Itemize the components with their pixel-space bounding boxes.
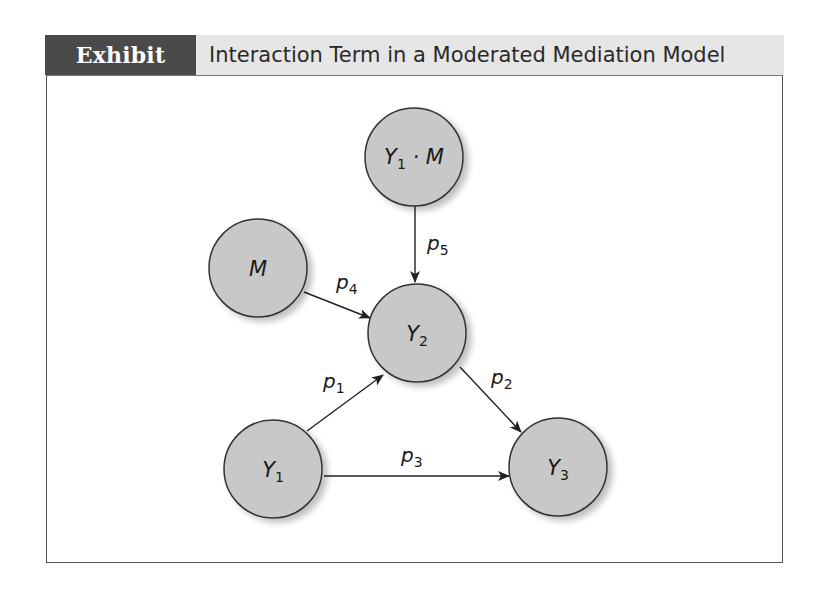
edge-y1-to-y3: p3 (324, 443, 509, 476)
node-y1: Y1 (224, 420, 322, 518)
edge-y1m-to-y2: p5 (415, 206, 449, 282)
path-label-p2: p2 (490, 365, 513, 392)
node-y2: Y2 (368, 284, 466, 382)
edge-y1-to-y2: p1 (307, 369, 383, 431)
node-m: M (209, 219, 307, 317)
path-label-p3: p3 (400, 443, 423, 470)
path-label-p1: p1 (322, 369, 345, 396)
moderated-mediation-diagram: p5 p4 p1 p2 p3 Y1 · M M Y2 Y1 Y3 (0, 0, 819, 590)
path-label-p5: p5 (426, 231, 449, 258)
svg-text:Y1 · M: Y1 · M (384, 145, 444, 172)
svg-text:M: M (249, 257, 267, 281)
node-y1-times-m: Y1 · M (365, 108, 463, 206)
edge-y2-to-y3: p2 (460, 365, 521, 432)
edge-m-to-y2: p4 (304, 270, 370, 318)
path-label-p4: p4 (335, 270, 358, 297)
node-y3: Y3 (509, 418, 607, 516)
